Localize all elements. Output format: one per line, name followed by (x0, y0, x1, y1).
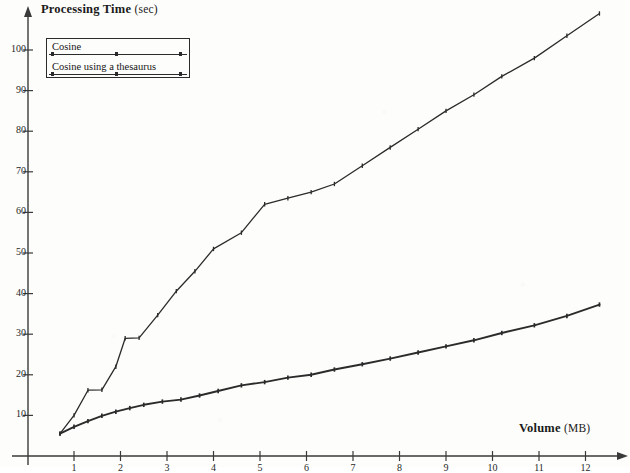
x-tick-label: 12 (578, 462, 594, 473)
legend-marker-cosine-thesaurus (179, 72, 182, 76)
x-tick-label: 4 (206, 462, 222, 473)
x-tick-label: 5 (252, 462, 268, 473)
y-tick-label: 80 (0, 124, 26, 135)
x-axis-title-unit: (MB) (564, 422, 590, 434)
y-tick-label: 10 (0, 408, 26, 419)
legend: Cosine Cosine using a thesaurus (46, 38, 190, 78)
legend-marker-cosine-thesaurus (115, 72, 118, 76)
legend-marker-cosine (51, 52, 54, 56)
y-tick-label: 20 (0, 368, 26, 379)
y-tick-label: 60 (0, 205, 26, 216)
y-tick-label: 70 (0, 165, 26, 176)
legend-marker-cosine-thesaurus (51, 72, 54, 76)
legend-label-cosine: Cosine (52, 41, 81, 52)
y-tick-label: 40 (0, 287, 26, 298)
x-tick-label: 11 (531, 462, 547, 473)
y-tick-label: 100 (0, 43, 26, 54)
x-tick-label: 1 (66, 462, 82, 473)
x-tick-label: 9 (438, 462, 454, 473)
x-tick-label: 3 (159, 462, 175, 473)
x-tick-label: 8 (392, 462, 408, 473)
legend-entry-cosine: Cosine (47, 39, 189, 59)
legend-line-cosine (49, 54, 187, 55)
y-tick-label: 30 (0, 327, 26, 338)
legend-marker-cosine (115, 52, 118, 56)
y-tick-label: 90 (0, 84, 26, 95)
y-tick-label: 50 (0, 246, 26, 257)
x-axis-title-main: Volume (519, 421, 561, 435)
x-axis-title: Volume (MB) (519, 421, 590, 436)
legend-line-cosine-thesaurus (49, 74, 187, 75)
y-axis-title-unit: (sec) (134, 3, 157, 15)
x-tick-label: 10 (485, 462, 501, 473)
series-line-cosine (60, 305, 600, 434)
x-tick-label: 7 (345, 462, 361, 473)
x-tick-label: 6 (299, 462, 315, 473)
legend-label-cosine-thesaurus: Cosine using a thesaurus (52, 61, 156, 72)
y-axis-title: Processing Time (sec) (41, 2, 158, 17)
legend-entry-cosine-thesaurus: Cosine using a thesaurus (47, 59, 189, 79)
x-tick-label: 2 (113, 462, 129, 473)
legend-marker-cosine (179, 52, 182, 56)
y-axis-title-main: Processing Time (41, 2, 131, 16)
